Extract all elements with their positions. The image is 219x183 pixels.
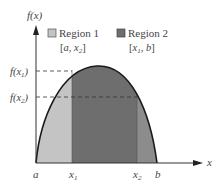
x-tick-b: b (155, 168, 161, 180)
legend-region-1-interval: [a, x2] (60, 42, 86, 55)
x-tick-x2: x2 (132, 168, 142, 182)
diagram-canvas: f(x) x Region 1 [a, x2] Region 2 [x1, b]… (0, 0, 219, 183)
y-axis-arrow-icon (33, 25, 39, 35)
y-axis-label: f(x) (27, 9, 43, 22)
legend-region-1-label: Region 1 (59, 27, 99, 39)
shaded-regions (36, 40, 162, 163)
legend-region-2-swatch (117, 29, 125, 37)
legend-region-1-swatch (48, 29, 56, 37)
y-tick-f-x2: f(x2) (10, 92, 29, 105)
x-axis-label: x (206, 156, 212, 168)
region-2-fill (72, 40, 137, 163)
legend-region-2-interval: [x1, b] (129, 42, 155, 55)
x-tick-x1: x1 (68, 168, 77, 182)
y-tick-f-x1: f(x1) (10, 66, 29, 79)
legend-region-2-label: Region 2 (128, 27, 168, 39)
x-tick-a: a (33, 168, 39, 180)
region-1-fill (36, 40, 72, 163)
x-axis-arrow-icon (193, 160, 203, 166)
